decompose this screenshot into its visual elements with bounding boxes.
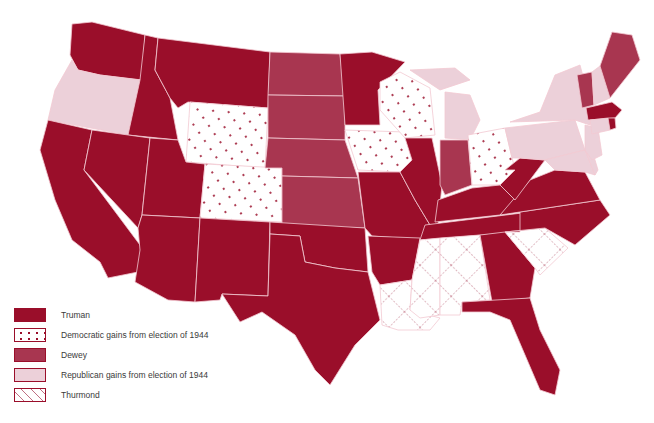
state-IA [345, 130, 412, 172]
state-NM [195, 218, 270, 302]
democratic-gains-swatch [14, 328, 46, 342]
state-KS [282, 176, 365, 228]
dewey-swatch [14, 348, 46, 362]
state-WY [186, 102, 268, 168]
legend-item-thurmond: Thurmond [14, 385, 208, 405]
legend-label: Dewey [61, 350, 87, 360]
legend-label: Democratic gains from election of 1944 [61, 330, 208, 340]
republican-gains-swatch [14, 368, 46, 382]
state-CT [590, 118, 610, 134]
legend-item-democratic-gains: Democratic gains from election of 1944 [14, 325, 208, 345]
state-IN [440, 140, 472, 195]
legend-item-dewey: Dewey [14, 345, 208, 365]
legend-item-republican-gains: Republican gains from election of 1944 [14, 365, 208, 385]
state-CO [200, 164, 282, 222]
legend-label: Republican gains from election of 1944 [61, 370, 208, 380]
state-SD [268, 95, 345, 140]
thurmond-swatch [14, 388, 46, 402]
state-WI [380, 72, 435, 138]
state-AZ [135, 215, 200, 302]
state-FL [462, 298, 560, 395]
state-MT [155, 38, 270, 108]
state-ND [268, 52, 345, 96]
legend-label: Thurmond [61, 390, 100, 400]
legend-label: Truman [61, 310, 90, 320]
legend-item-truman: Truman [14, 305, 208, 325]
map-legend: Truman Democratic gains from election of… [14, 305, 208, 405]
truman-swatch [14, 308, 46, 322]
